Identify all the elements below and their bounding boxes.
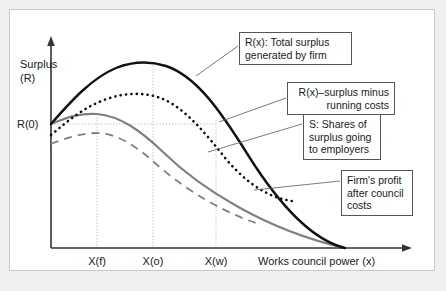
x-tick-label-xf: X(f) xyxy=(88,255,106,267)
gridlines xyxy=(51,62,216,248)
x-tick-label-xo: X(o) xyxy=(143,255,164,267)
leader-line-total-surplus xyxy=(196,46,238,76)
y-axis-origin-label: R(0) xyxy=(17,118,38,130)
callout-total-surplus: R(x): Total surplus generated by firm xyxy=(239,32,352,65)
x-axis-label: Works council power (x) xyxy=(258,255,375,267)
y-axis-label-line1: Surplus xyxy=(20,58,58,70)
y-axis-label-line2: (R) xyxy=(20,72,35,84)
figure-container: Surplus (R) R(0) X(f) X(o) X(w) Works co… xyxy=(0,0,446,291)
series-surplus-minus-running-costs xyxy=(51,94,292,201)
y-axis-arrow-icon xyxy=(47,36,55,46)
callout-running-costs: R(x)–surplus minus running costs xyxy=(287,82,395,115)
leader-line-shares xyxy=(208,124,302,152)
callout-shares-of-surplus: S: Shares of surplus going to employers xyxy=(303,114,381,160)
x-tick-label-xw: X(w) xyxy=(205,255,228,267)
x-axis-arrow-icon xyxy=(402,244,412,252)
leader-line-running-costs xyxy=(219,98,286,122)
callout-firm-profit: Firm's profit after council costs xyxy=(341,170,413,216)
